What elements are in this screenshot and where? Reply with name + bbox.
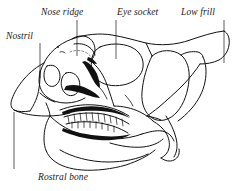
rostral-bone-seam: [30, 71, 40, 111]
skull-diagram-figure: Nose ridge Nostril Eye socket Low frill …: [0, 0, 235, 191]
snout-fenestra: [61, 72, 80, 95]
postorbital-bar: [146, 43, 152, 56]
lower-tooth-row: [66, 122, 128, 133]
jaw-angular-seam: [110, 139, 163, 147]
skull-illustration: [0, 0, 235, 191]
snout-shading-lower: [64, 85, 100, 98]
label-low-frill: Low frill: [181, 7, 215, 18]
upper-teeth: [68, 113, 123, 127]
upper-lip-shading: [62, 106, 130, 118]
skull-outline-group: [11, 31, 229, 170]
label-rostral-bone: Rostral bone: [38, 172, 88, 183]
eye-socket-orbit: [91, 44, 143, 86]
premaxilla-seam: [46, 103, 50, 116]
label-nose-ridge: Nose ridge: [41, 7, 83, 18]
jugal-seam: [181, 52, 203, 57]
frill-inner-arc: [178, 57, 206, 121]
label-eye-socket: Eye socket: [117, 7, 158, 18]
skull-dorsal-outline: [44, 31, 224, 63]
label-nostril: Nostril: [6, 31, 33, 42]
jaw-joint-quadrate: [153, 121, 169, 158]
nostril-opening: [44, 65, 60, 86]
rostral-bone-lower-edge: [14, 110, 70, 116]
lower-teeth: [72, 121, 114, 132]
jaw-lower-seam: [60, 150, 148, 162]
leader-lines: [14, 20, 224, 169]
